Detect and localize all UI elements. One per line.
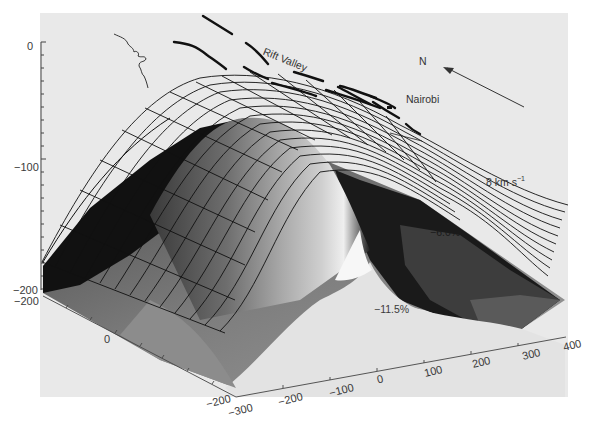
anomaly-label-11pct: −11.5% bbox=[374, 303, 409, 315]
y-tick-minus200-left: −200 bbox=[14, 295, 39, 307]
anomaly-label-6pct: −6.0% bbox=[430, 226, 460, 238]
nairobi-label: Nairobi bbox=[406, 93, 439, 105]
north-label: N bbox=[419, 55, 427, 67]
velocity-surface-label: 8 km s−1 bbox=[486, 175, 525, 188]
z-tick-0: 0 bbox=[27, 40, 33, 52]
z-tick-minus100: −100 bbox=[14, 161, 39, 173]
velocity-surface-exponent: −1 bbox=[517, 175, 525, 182]
velocity-surface-text: 8 km s bbox=[486, 176, 517, 188]
nairobi-marker bbox=[387, 106, 392, 109]
y-tick-0: 0 bbox=[104, 333, 110, 345]
